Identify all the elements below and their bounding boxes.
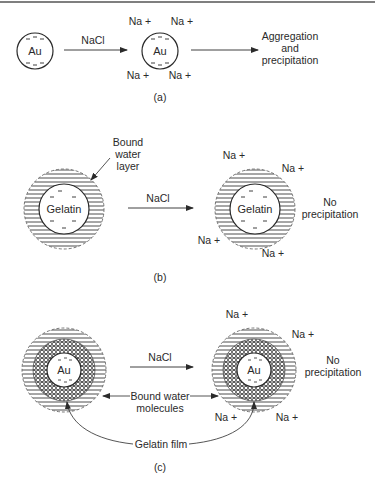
protected-au-particle-with-ions: Au — [212, 328, 296, 412]
result-line-1: No — [326, 354, 340, 366]
sodium-ion-label: Na + — [276, 411, 298, 423]
panel-b: Gelatin Bound water layer NaCl Gelatin N… — [24, 136, 358, 283]
sodium-ion-label: Na + — [198, 234, 220, 246]
sodium-ion-label: Na + — [169, 69, 191, 81]
sodium-ion-label: Na + — [171, 15, 193, 27]
result-line-1: No — [323, 196, 337, 208]
caption-b: (b) — [154, 271, 167, 283]
au-label: Au — [153, 45, 166, 57]
caption-c: (c) — [154, 461, 166, 473]
panel-a: Au NaCl Au Na + Na + Na + Na + Aggregati… — [17, 15, 318, 103]
sodium-ion-label: Na + — [129, 15, 151, 27]
bound-water-annotation-2: water — [114, 148, 141, 160]
au-label: Au — [28, 45, 41, 57]
gelatin-label: Gelatin — [47, 203, 82, 215]
bound-water-annotation-3: layer — [117, 160, 140, 172]
sodium-ion-label: Na + — [215, 411, 237, 423]
bound-water-annotation-1: Bound — [113, 136, 144, 148]
sodium-ion-label: Na + — [223, 149, 245, 161]
sodium-ion-label: Na + — [127, 69, 149, 81]
bound-water-pointer-arrow — [91, 158, 110, 180]
bound-water-annotation-1: Bound water — [131, 390, 190, 402]
bound-water-annotation-2: molecules — [136, 402, 183, 414]
nacl-label: NaCl — [148, 351, 171, 363]
au-particle-with-ions: Au — [142, 33, 178, 69]
result-line-2: and — [281, 42, 299, 54]
result-line-3: precipitation — [262, 54, 319, 66]
caption-a: (a) — [154, 91, 167, 103]
result-line-1: Aggregation — [262, 30, 319, 42]
panel-c: Au NaCl Au Na + Na + Na + Na + No precip… — [22, 308, 361, 473]
result-line-2: precipitation — [302, 208, 359, 220]
protected-au-particle-initial: Au — [22, 328, 106, 412]
result-line-2: precipitation — [305, 366, 362, 378]
au-particle-initial: Au — [17, 33, 53, 69]
gelatin-film-annotation: Gelatin film — [135, 438, 188, 450]
sodium-ion-label: Na + — [282, 162, 304, 174]
gelatin-label: Gelatin — [238, 203, 273, 215]
nacl-label: NaCl — [81, 34, 104, 46]
sodium-ion-label: Na + — [226, 308, 248, 320]
sodium-ion-label: Na + — [262, 247, 284, 259]
au-label: Au — [57, 364, 70, 376]
nacl-label: NaCl — [146, 192, 169, 204]
au-label: Au — [247, 364, 260, 376]
colloid-protection-diagram: Au NaCl Au Na + Na + Na + Na + Aggregati… — [0, 0, 375, 478]
gelatin-particle-initial: Gelatin — [24, 169, 104, 249]
gelatin-particle-with-ions: Gelatin — [215, 169, 295, 249]
sodium-ion-label: Na + — [292, 328, 314, 340]
